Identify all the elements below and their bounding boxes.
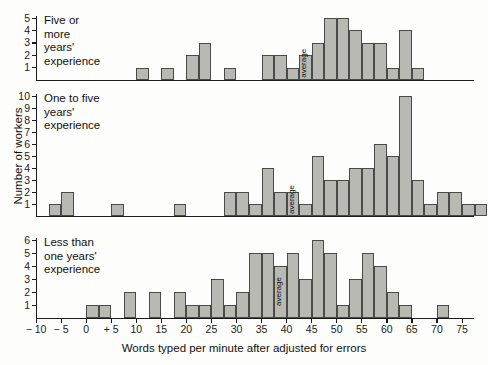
y-axis-tick [32, 168, 37, 169]
y-axis-tick [32, 30, 37, 31]
histogram-bar [324, 253, 337, 318]
histogram-bar [149, 292, 162, 318]
histogram-bar [475, 204, 488, 216]
histogram-bar [324, 180, 337, 216]
histogram-bar [374, 266, 387, 318]
histogram-bar [211, 279, 224, 318]
x-axis-line [36, 80, 474, 81]
y-axis-tick [32, 204, 37, 205]
histogram-bar [299, 279, 312, 318]
y-axis-tick-label: 3 [0, 175, 30, 186]
y-axis-tick [32, 156, 37, 157]
x-axis-tick-label: 75 [446, 324, 478, 335]
histogram-bar [324, 18, 337, 80]
histogram-bar [437, 305, 450, 318]
y-axis-tick-label: 8 [0, 115, 30, 126]
histogram-bar [312, 156, 325, 216]
histogram-bar [399, 30, 412, 80]
y-axis-tick [32, 240, 37, 241]
histogram-bar [424, 204, 437, 216]
y-axis-tick [32, 253, 37, 254]
histogram-bar [349, 30, 362, 80]
histogram-bar [312, 43, 325, 80]
histogram-bar [412, 180, 425, 216]
y-axis-tick [32, 192, 37, 193]
histogram-bar [136, 68, 149, 80]
histogram-bar [274, 192, 287, 216]
y-axis-tick [32, 292, 37, 293]
y-axis-tick-label: 3 [0, 37, 30, 48]
histogram-bar [399, 305, 412, 318]
histogram-bar [186, 55, 199, 80]
histogram-bar [262, 253, 275, 318]
histogram-bar [437, 192, 450, 216]
y-axis-tick [32, 55, 37, 56]
average-annotation: average [275, 268, 286, 316]
histogram-bar [236, 192, 249, 216]
histogram-bar [362, 168, 375, 216]
y-axis-line [36, 16, 37, 81]
y-axis-tick [32, 18, 37, 19]
histogram-bar [287, 68, 300, 80]
histogram-bar [236, 292, 249, 318]
histogram-bar [387, 292, 400, 318]
histogram-bar [387, 156, 400, 216]
histogram-bar [349, 279, 362, 318]
histogram-bar [349, 168, 362, 216]
histogram-bar [449, 192, 462, 216]
histogram-bar [249, 253, 262, 318]
y-axis-tick-label: 7 [0, 127, 30, 138]
histogram-bar [362, 43, 375, 80]
y-axis-tick-label: 4 [0, 261, 30, 272]
panel-title: Five or more years' experience [44, 14, 100, 68]
y-axis-tick-label: 10 [0, 91, 30, 102]
y-axis-tick-label: 2 [0, 287, 30, 298]
y-axis-tick [32, 67, 37, 68]
y-axis-tick [32, 96, 37, 97]
y-axis-tick [32, 305, 37, 306]
histogram-bar [399, 96, 412, 216]
histogram-bar [462, 204, 475, 216]
y-axis-tick [32, 42, 37, 43]
histogram-bar [161, 68, 174, 80]
histogram-bar [199, 43, 212, 80]
histogram-bar [124, 292, 137, 318]
histogram-figure: Number of workers 12345Five or more year… [0, 0, 488, 365]
y-axis-tick-label: 5 [0, 248, 30, 259]
histogram-bar [287, 253, 300, 318]
histogram-bar [262, 168, 275, 216]
y-axis-tick [32, 144, 37, 145]
histogram-bar [262, 55, 275, 80]
y-axis-tick-label: 6 [0, 139, 30, 150]
histogram-bar [224, 68, 237, 80]
histogram-bar [337, 305, 350, 318]
y-axis-tick-label: 1 [0, 199, 30, 210]
y-axis-tick-label: 5 [0, 151, 30, 162]
y-axis-tick-label: 3 [0, 274, 30, 285]
histogram-bar [174, 292, 187, 318]
histogram-bar [312, 240, 325, 318]
y-axis-tick [32, 108, 37, 109]
histogram-bar [174, 204, 187, 216]
average-annotation: average [288, 194, 299, 214]
histogram-bar [224, 305, 237, 318]
panel-title: One to five years' experience [44, 92, 100, 133]
y-axis-tick [32, 132, 37, 133]
histogram-bar [61, 192, 74, 216]
histogram-bar [99, 305, 112, 318]
histogram-bar [387, 68, 400, 80]
average-annotation: average [300, 57, 311, 78]
y-axis-tick-label: 6 [0, 235, 30, 246]
y-axis-tick [32, 120, 37, 121]
histogram-bar [337, 18, 350, 80]
histogram-bar [337, 180, 350, 216]
histogram-bar [412, 68, 425, 80]
histogram-bar [274, 55, 287, 80]
y-axis-tick-label: 9 [0, 103, 30, 114]
histogram-bar [199, 305, 212, 318]
y-axis-tick-label: 5 [0, 13, 30, 24]
y-axis-tick [32, 180, 37, 181]
x-axis-label: Words typed per minute after adjusted fo… [0, 342, 488, 354]
panel-title: Less than one years' experience [44, 236, 100, 277]
histogram-bar [86, 305, 99, 318]
